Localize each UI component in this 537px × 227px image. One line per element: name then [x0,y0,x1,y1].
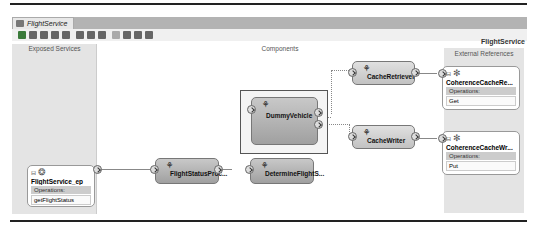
port-in[interactable] [245,165,254,174]
deploy-icon[interactable] [40,31,48,39]
settings-icon[interactable] [87,31,95,39]
service-flightservice-ep[interactable]: ⊟❂ FlightService_ep Operations: getFligh… [27,165,95,207]
external-references-label: External References [444,50,524,57]
operations-header: Operations: [31,186,91,194]
wire-ep-to-flightstatus[interactable] [98,169,154,170]
port-in[interactable] [348,132,357,141]
service-port[interactable] [93,165,102,174]
component-icon: ⚘ [363,64,370,73]
component-cachewriter[interactable]: ⚘ CacheWriter [352,125,415,149]
tab-label: FlightService [27,20,67,27]
top-rule [10,3,527,5]
toolbar [12,29,527,41]
find-icon[interactable] [134,31,142,39]
reference-port[interactable] [438,69,447,78]
collapse-icon[interactable]: ⊟ [31,169,36,176]
zoom-icon[interactable] [98,31,106,39]
components-label: Components [240,45,320,52]
component-icon: ⚘ [262,100,269,109]
port-out[interactable] [411,132,420,141]
canvas-title: FlightService [481,38,525,45]
service-name: FlightService_ep [28,178,94,185]
operation-item[interactable]: getFlightStatus [31,195,91,205]
reference-coherencecachewriter[interactable]: ⊟✻ CoherenceCacheWr... Operations: Put [442,131,520,175]
reference-icon: ✻ [453,133,461,143]
operation-item[interactable]: Put [446,161,516,171]
component-determineflights[interactable]: ⚘ DetermineFlightS... [250,158,314,184]
delete-icon[interactable] [51,31,59,39]
layout-icon[interactable] [76,31,84,39]
editor-tab-bar: FlightService [12,17,527,29]
component-icon: ⚘ [261,161,268,170]
reference-coherencecacheretriever[interactable]: ⊟✻ CoherenceCacheRe... Operations: Get [442,66,520,110]
component-cacheretriever[interactable]: ⚘ CacheRetriever [352,61,415,85]
reference-port[interactable] [438,134,447,143]
port-out-2[interactable] [314,120,323,129]
service-icon: ❂ [38,167,46,177]
reference-icon: ✻ [453,68,461,78]
port-in[interactable] [348,68,357,77]
bottom-rule [10,220,527,222]
port-in[interactable] [247,105,256,114]
exposed-services-label: Exposed Services [12,45,97,52]
component-icon: ⚘ [363,128,370,137]
tab-flightservice[interactable]: FlightService [12,17,74,29]
component-flightstatusproc[interactable]: ⚘ FlightStatusProc... [155,158,219,184]
component-dummyvehicle[interactable]: ⚘ DummyVehicle [251,97,318,145]
paste-icon[interactable] [123,31,131,39]
test-icon[interactable] [29,31,37,39]
wire-icon[interactable] [62,31,70,39]
port-out-1[interactable] [314,108,323,117]
operation-item[interactable]: Get [446,96,516,106]
copy-icon[interactable] [112,31,120,39]
composite-icon [16,20,24,27]
port-out[interactable] [411,68,420,77]
validate-icon[interactable] [18,31,26,39]
component-icon: ⚘ [166,161,173,170]
print-icon[interactable] [145,31,153,39]
port-out[interactable] [214,165,223,174]
port-in[interactable] [150,165,159,174]
